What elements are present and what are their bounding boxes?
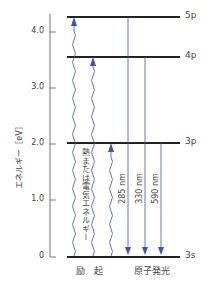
tick-label: 2.0 [16,138,44,147]
arrowhead-icon [158,247,164,255]
excitation-arrows [71,17,114,256]
level-label-3p: 3p [185,136,196,146]
y-axis-ticks [50,32,56,200]
arrowhead-icon [90,57,96,66]
arrowhead-icon [125,247,131,255]
tick-label: 3.0 [16,82,44,91]
excitation-wave-3p [110,151,113,256]
level-label-4p: 4p [185,50,196,60]
arrowhead-icon [142,247,148,255]
excitation-label: 励 起 [76,264,103,277]
emission-label: 原子発光 [134,264,170,277]
arrowhead-icon [71,17,77,26]
tick-label: 4.0 [16,26,44,35]
level-label-3s: 3s [185,250,195,260]
wavelength-label: 285 nm [118,169,127,209]
tick-label: 0 [16,251,44,260]
emission-arrows [125,17,164,255]
wavelength-label: 590 nm [151,169,160,209]
arrowhead-icon [108,143,114,152]
level-label-5p: 5p [185,10,196,20]
tick-label: 1.0 [16,194,44,203]
excitation-wave-4p [92,65,95,256]
excitation-energy-text: 熱または電気エネルギー [79,148,90,242]
excitation-wave-5p [73,25,76,256]
y-axis-label: エネルギー［eV］ [13,116,24,196]
wavelength-label: 330 nm [135,169,144,209]
